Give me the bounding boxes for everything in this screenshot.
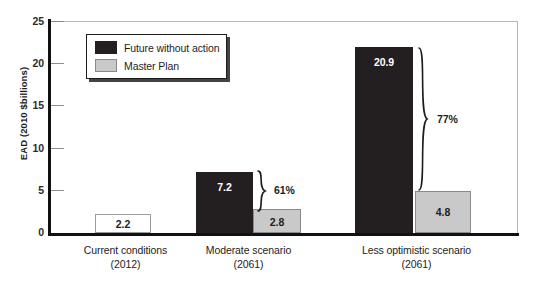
x-category-sublabel-2: (2061) <box>344 257 489 271</box>
bar-label-current-conditions: 2.2 <box>96 218 150 230</box>
y-axis-line <box>48 19 51 235</box>
brace-moderate-reduction <box>255 170 271 212</box>
bar-moderate-future-without-action: 7.2 <box>196 172 253 233</box>
bar-label-less-optimistic-future: 20.9 <box>356 56 412 68</box>
x-category-moderate-scenario: Moderate scenario (2061) <box>186 243 311 271</box>
y-tick-label-20: 20 <box>14 57 44 69</box>
y-tick-20 <box>51 63 64 64</box>
y-tick-5 <box>51 190 64 191</box>
legend-swatch-dark-icon <box>95 41 117 54</box>
x-category-sublabel-1: (2061) <box>186 257 311 271</box>
bar-current-conditions: 2.2 <box>95 214 151 233</box>
bar-label-moderate-master-plan: 2.8 <box>254 216 300 228</box>
legend-label-future-without-action: Future without action <box>124 42 219 54</box>
bar-label-moderate-future: 7.2 <box>197 181 252 193</box>
y-tick-25 <box>51 21 64 22</box>
x-category-label-1: Moderate scenario <box>186 243 311 257</box>
y-tick-10 <box>51 148 64 149</box>
x-category-label-0: Current conditions <box>63 243 188 257</box>
y-tick-label-5: 5 <box>14 184 44 196</box>
legend: Future without action Master Plan <box>86 34 227 79</box>
brace-less-optimistic-reduction <box>415 46 433 192</box>
y-tick-label-25: 25 <box>14 15 44 27</box>
brace-label-moderate-reduction: 61% <box>274 184 295 196</box>
y-tick-label-15: 15 <box>14 99 44 111</box>
y-tick-label-0: 0 <box>14 226 44 238</box>
y-tick-15 <box>51 105 64 106</box>
bar-label-less-optimistic-master-plan: 4.8 <box>416 206 470 218</box>
legend-item-future-without-action: Future without action <box>95 40 219 55</box>
legend-item-master-plan: Master Plan <box>95 58 179 73</box>
bar-moderate-master-plan: 2.8 <box>253 209 301 233</box>
x-axis-line <box>48 233 519 236</box>
y-tick-label-10: 10 <box>14 142 44 154</box>
x-category-label-2: Less optimistic scenario <box>344 243 489 257</box>
brace-label-less-optimistic-reduction: 77% <box>437 113 458 125</box>
legend-swatch-gray-icon <box>95 59 117 72</box>
legend-label-master-plan: Master Plan <box>124 60 179 72</box>
x-category-current-conditions: Current conditions (2012) <box>63 243 188 271</box>
bar-less-optimistic-future-without-action: 20.9 <box>355 47 413 233</box>
bar-less-optimistic-master-plan: 4.8 <box>415 191 471 233</box>
bar-chart: EAD (2010 $billions) 25 20 15 10 5 0 2.2… <box>0 0 533 284</box>
x-category-less-optimistic-scenario: Less optimistic scenario (2061) <box>344 243 489 271</box>
x-category-sublabel-0: (2012) <box>63 257 188 271</box>
